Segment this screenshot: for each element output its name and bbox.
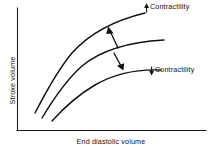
- decreased-contractility-label: Contractility: [155, 66, 194, 74]
- curve-increased-contractility: [35, 13, 145, 113]
- label-up-arrow-head: [144, 3, 149, 8]
- arrow-up-shaft: [110, 31, 118, 48]
- label-down-arrow-head: [149, 71, 154, 76]
- curve-decreased-contractility: [52, 70, 161, 121]
- increased-contractility-label: Contractility: [150, 3, 189, 11]
- arrow-down-shaft: [114, 53, 121, 66]
- arrow-up-head: [106, 27, 113, 35]
- curve-normal-contractility: [42, 40, 164, 118]
- x-axis-label: End diastolic volume: [16, 137, 206, 146]
- frank-starling-curve-figure: Contractility Contractility Stroke volum…: [0, 0, 211, 147]
- y-axis-label: Stroke volume: [8, 48, 17, 114]
